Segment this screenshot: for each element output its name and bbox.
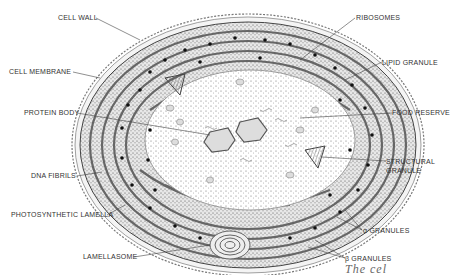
label-ribosomes: RIBOSOMES <box>356 14 400 22</box>
label-cell-membrane: CELL MEMBRANE <box>9 68 71 76</box>
label-structural-granule-line1: STRUCTURAL <box>386 158 435 166</box>
lamellasome <box>210 231 250 259</box>
label-food-reserve: FOOD RESERVE <box>392 109 450 117</box>
label-photosynthetic-lamella: PHOTOSYNTHETIC LAMELLA <box>11 211 113 219</box>
label-dna-fibrils: DNA FIBRILS <box>31 172 76 180</box>
label-cell-wall: CELL WALL <box>58 14 98 22</box>
footer-text-fragment: The cel <box>345 262 387 275</box>
label-alpha-granules: α GRANULES <box>363 227 410 235</box>
label-protein-body: PROTEIN BODY <box>24 109 79 117</box>
label-structural-granule-line2: GRANULE <box>386 167 421 175</box>
label-lamellasome: LAMELLASOME <box>83 253 137 261</box>
label-lipid-granule: LIPID GRANULE <box>382 59 438 67</box>
